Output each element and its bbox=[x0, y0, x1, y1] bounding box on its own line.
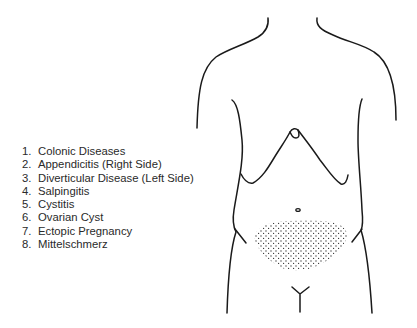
pain-region-stipple bbox=[254, 221, 347, 271]
left-shoulder-outline bbox=[197, 18, 268, 128]
left-hip-line bbox=[235, 229, 246, 243]
groin-line bbox=[292, 287, 309, 312]
navel bbox=[296, 209, 300, 212]
torso-diagram bbox=[0, 0, 417, 328]
right-hip-line bbox=[352, 229, 362, 242]
right-torso-outline bbox=[358, 99, 372, 313]
right-shoulder-outline bbox=[317, 18, 396, 120]
left-torso-outline bbox=[227, 100, 242, 313]
